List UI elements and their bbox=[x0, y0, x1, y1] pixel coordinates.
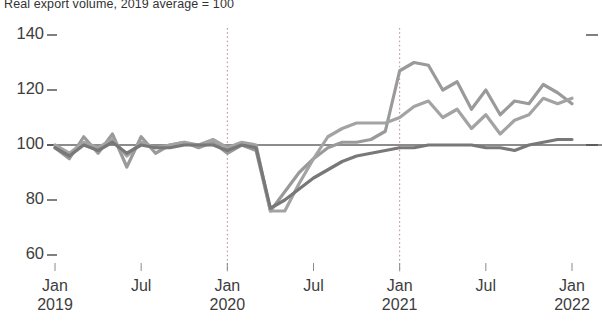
x-axis-label-month: Jul bbox=[131, 277, 151, 294]
x-axis-label-month: Jan bbox=[214, 277, 240, 294]
x-axis-label-3: Jul bbox=[269, 276, 359, 295]
x-axis-label-year: 2019 bbox=[10, 295, 100, 314]
line-series-3 bbox=[55, 140, 572, 209]
x-axis-label-month: Jan bbox=[42, 277, 68, 294]
x-axis-label-2: Jan2020 bbox=[182, 276, 272, 314]
y-axis-label-60: 60 bbox=[0, 244, 44, 263]
x-axis-label-year: 2021 bbox=[355, 295, 445, 314]
x-axis-label-month: Jul bbox=[476, 277, 496, 294]
line-series-1 bbox=[55, 63, 572, 212]
y-axis-label-100: 100 bbox=[0, 134, 44, 153]
x-axis-label-year: 2022 bbox=[527, 295, 602, 314]
x-axis-label-6: Jan2022 bbox=[527, 276, 602, 314]
y-axis-label-80: 80 bbox=[0, 189, 44, 208]
chart-container: Real export volume, 2019 average = 100 1… bbox=[0, 0, 602, 327]
x-axis-label-1: Jul bbox=[96, 276, 186, 295]
x-axis-label-0: Jan2019 bbox=[10, 276, 100, 314]
x-axis-label-4: Jan2021 bbox=[355, 276, 445, 314]
y-axis-label-120: 120 bbox=[0, 79, 44, 98]
x-axis-label-month: Jul bbox=[303, 277, 323, 294]
x-axis-label-month: Jan bbox=[559, 277, 585, 294]
x-axis-label-year: 2020 bbox=[182, 295, 272, 314]
x-axis-label-month: Jan bbox=[387, 277, 413, 294]
x-axis-label-5: Jul bbox=[441, 276, 531, 295]
y-axis-label-140: 140 bbox=[0, 24, 44, 43]
